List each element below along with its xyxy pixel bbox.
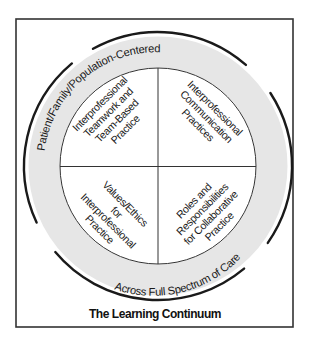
diagram-canvas: Patient/Family/Population-Centered Acros… [0,0,310,341]
figure-title: The Learning Continuum [89,307,221,321]
learning-continuum-figure: Patient/Family/Population-Centered Acros… [0,0,310,341]
